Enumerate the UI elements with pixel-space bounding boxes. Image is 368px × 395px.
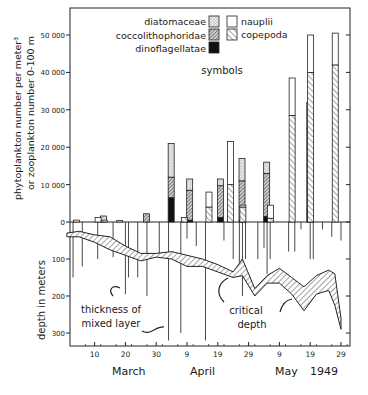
x-tick-label: 30 [151, 350, 161, 359]
phyto-bar-cocco [144, 214, 150, 222]
x-tick-label: 10 [90, 350, 100, 359]
zoo-bar-nauplii [268, 205, 274, 218]
y-tick-label: 40 000 [41, 69, 66, 77]
y-tick-label: 200 [52, 293, 65, 301]
zoo-bar-copepoda [332, 65, 338, 222]
zoo-bar-nauplii [332, 33, 338, 65]
zoo-bar-nauplii [95, 218, 101, 222]
zoo-bar-copepoda [228, 185, 234, 222]
x-tick-label: 20 [121, 350, 131, 359]
x-tick-label: 19 [213, 350, 223, 359]
annotation-critical-2: depth [237, 319, 266, 330]
y-tick-label: 100 [52, 256, 65, 264]
month-april: April [190, 365, 215, 378]
y-tick-label: 300 [52, 330, 65, 338]
phyto-bar-diatom [168, 143, 174, 177]
y-label-upper-2: or zooplankton number 0-100 m [25, 36, 36, 190]
legend-title: symbols [201, 65, 242, 76]
annotation-critical-1: critical [229, 305, 263, 316]
zoo-bar-nauplii [117, 221, 123, 222]
zoo-bar-copepoda [101, 220, 107, 222]
phyto-bar-cocco [168, 177, 174, 198]
phyto-bar-diatom [264, 162, 270, 173]
annotation-arrow-mixed-2 [142, 327, 164, 332]
y-tick-label: 0 [61, 219, 65, 227]
plankton-chart: 010 00020 00030 00040 00050 000 10020030… [0, 0, 368, 395]
zoo-bar-copepoda [181, 218, 187, 222]
y-label-lower: depth in meters [36, 260, 47, 340]
x-tick-label: 9 [277, 350, 282, 359]
x-axis: 1020309192991929 [85, 342, 347, 359]
zoo-bar-nauplii [289, 78, 295, 115]
y-tick-label: 20 000 [41, 144, 66, 152]
x-tick-label: 9 [185, 350, 190, 359]
x-tick-label: 29 [244, 350, 254, 359]
phyto-bar-diatom [239, 158, 245, 180]
legend-dinoflagellatae-label: dinoflagellatae [135, 43, 206, 54]
annotation-arrow-critical [219, 278, 228, 302]
zoo-bar-nauplii [240, 205, 246, 207]
legend-nauplii-swatch [227, 16, 237, 27]
y-tick-label: 50 000 [41, 32, 66, 40]
zoo-bar-copepoda [268, 218, 274, 222]
year-label: 1949 [310, 365, 338, 378]
legend-copepoda-label: copepoda [241, 29, 288, 40]
zoo-bar-copepoda [289, 115, 295, 222]
zoo-bar-nauplii [308, 35, 314, 72]
legend-nauplii-label: nauplii [241, 16, 273, 27]
y-axis-upper: 010 00020 00030 00040 00050 000 [41, 32, 351, 227]
legend-dinoflagellatae-swatch [209, 42, 219, 53]
legend-coccolithophoridae-swatch [209, 29, 219, 40]
phyto-bar-cocco [187, 190, 193, 220]
y-tick-label: 30 000 [41, 107, 66, 115]
annotation-mixed-layer-1: thickness of [81, 304, 142, 315]
legend: diatomaceae coccolithophoridae dinoflage… [116, 16, 288, 76]
svg-text:or zooplankton number 0-100 m: or zooplankton number 0-100 m [25, 36, 36, 190]
zoo-bar-copepoda [206, 207, 212, 222]
month-may: May [275, 365, 298, 378]
x-tick-label: 19 [305, 350, 315, 359]
phyto-bar-dino [168, 198, 174, 222]
legend-diatomaceae-swatch [209, 16, 219, 27]
annotation-arrow-mixed [111, 287, 120, 296]
y-label-upper: phytoplankton number per meter³ [12, 37, 23, 200]
zoo-bar-copepoda [308, 72, 314, 222]
annotation-mixed-layer-2: mixed layer [82, 318, 142, 329]
zoo-bar-nauplii [228, 142, 234, 185]
phyto-bar-dino [217, 218, 223, 222]
zoo-bar-copepoda [240, 207, 246, 222]
phyto-bar-diatom [187, 179, 193, 190]
svg-text:phytoplankton number per meter: phytoplankton number per meter³ [12, 37, 23, 200]
phyto-bar-cocco [217, 186, 223, 218]
phyto-bar-diatom [217, 179, 223, 186]
legend-copepoda-swatch [227, 29, 237, 40]
legend-diatomaceae-label: diatomaceae [144, 16, 206, 27]
annotation-arrow-critical-2 [280, 299, 292, 312]
month-march: March [112, 365, 146, 378]
legend-coccolithophoridae-label: coccolithophoridae [116, 30, 206, 41]
svg-text:depth in meters: depth in meters [36, 260, 47, 340]
plankton-bars [74, 33, 339, 222]
y-tick-label: 10 000 [41, 182, 66, 190]
zoo-bar-nauplii [74, 220, 80, 222]
zoo-bar-nauplii [206, 192, 212, 207]
x-tick-label: 29 [336, 350, 346, 359]
